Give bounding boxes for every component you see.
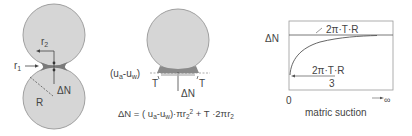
tension-right-tick: [197, 76, 198, 79]
tension-left-tick: [158, 76, 159, 79]
contact-dot-bottom: [53, 69, 56, 72]
x-axis-label: matric suction: [305, 107, 367, 118]
lower-arrowhead-icon: [291, 75, 295, 78]
panel-sphere-on-water: (ua-uw) T T ΔN ΔN = ( ua-uw)·πr22 + T ·2…: [110, 9, 234, 120]
label-delta-N-b: ΔN: [181, 88, 195, 99]
label-suction: (ua-uw): [110, 68, 140, 80]
equation: ΔN = ( ua-uw)·πr22 + T ·2πr2: [118, 108, 234, 120]
label-R: R: [36, 97, 43, 108]
y-axis-label: ΔN: [265, 33, 279, 44]
diagram-canvas: r2 r1 ΔN R (ua-uw) T T ΔN ΔN = ( ua-uw)·…: [0, 0, 412, 136]
lower-limit-denominator: 3: [329, 78, 335, 89]
panel-chart: ΔN 2π·T·R 2π·T·R 3 0 ∞ matric suction: [265, 21, 393, 118]
upper-asymptote-label: 2π·T·R: [326, 24, 358, 35]
label-delta-N-a: ΔN: [57, 85, 71, 96]
lower-limit-numerator: 2π·T·R: [312, 65, 344, 76]
panel-two-spheres: r2 r1 ΔN R: [14, 4, 85, 129]
sphere: [147, 9, 209, 71]
x-origin-label: 0: [286, 95, 292, 106]
label-T-left: T: [152, 78, 158, 89]
x-infinity-label: ∞: [384, 95, 390, 105]
r1-arrowhead-icon: [35, 64, 39, 67]
label-T-right: T: [199, 78, 205, 89]
upper-label-leader: [316, 28, 322, 33]
contact-dot-top: [53, 62, 56, 65]
label-r1: r1: [14, 60, 21, 72]
